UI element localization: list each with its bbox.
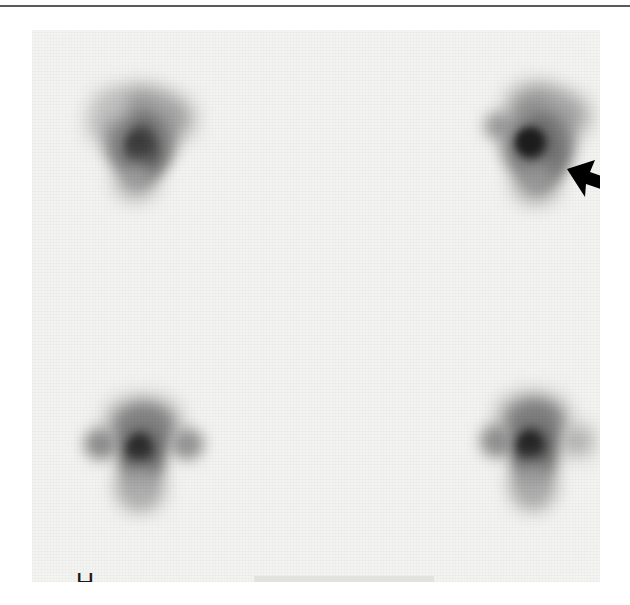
uptake-region [130,438,148,458]
orientation-marker-h: H [76,570,94,582]
slice-top-right [470,70,600,230]
uptake-region [128,132,150,160]
uptake-region [514,162,558,202]
slice-bottom-right [464,390,600,550]
uptake-region [94,90,128,120]
uptake-region [518,130,542,154]
lesion-arrow-annotation [565,152,600,204]
scan-film-panel: H TRANSVERSE Post-A [32,30,600,582]
uptake-region [116,162,156,198]
arrow-icon [565,152,600,204]
slice-top-left [70,70,220,230]
uptake-region [518,478,548,508]
uptake-region [84,428,118,460]
uptake-region [560,426,594,456]
uptake-region [520,434,540,456]
slice-bottom-left [74,392,224,552]
uptake-region [480,424,514,458]
uptake-region [170,428,204,460]
spect-bone-scan-figure: H TRANSVERSE Post-A [0,0,630,605]
transverse-caption: TRANSVERSE [260,581,436,582]
uptake-region [124,480,156,508]
top-rule-divider [0,5,630,7]
